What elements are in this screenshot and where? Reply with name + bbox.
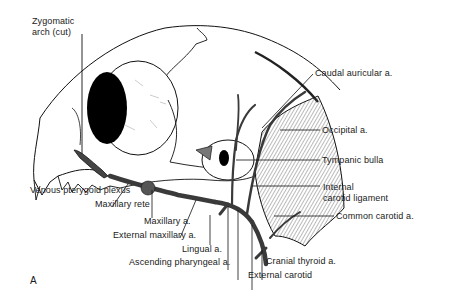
label-tympanic-bulla: Tympanic bulla <box>322 155 383 166</box>
label-maxillary-a: Maxillary a. <box>144 216 191 227</box>
label-common-carotid: Common carotid a. <box>336 211 414 222</box>
label-external-carotid: External carotid <box>248 270 312 281</box>
label-zygomatic-arch: Zygomatic arch (cut) <box>32 16 74 38</box>
anatomical-figure: Zygomatic arch (cut) Caudal auricular a.… <box>0 0 455 301</box>
label-cranial-thyroid: Cranial thyroid a. <box>266 256 336 267</box>
skull-drawing <box>0 0 455 301</box>
label-lingual: Lingual a. <box>182 244 222 255</box>
label-occipital: Occipital a. <box>322 125 368 136</box>
label-venous-pterygoid-plexus: Venous pterygoid plexus <box>30 185 130 196</box>
label-maxillary-rete: Maxillary rete <box>95 199 150 210</box>
maxillary-rete <box>141 181 155 195</box>
label-ascending-pharyngeal: Ascending pharyngeal a. <box>129 257 230 268</box>
label-internal-carotid-ligament: Internal carotid ligament <box>323 182 388 204</box>
label-caudal-auricular: Caudal auricular a. <box>315 68 392 79</box>
skull-outline <box>40 26 340 118</box>
panel-label: A <box>30 275 37 286</box>
occipital-region <box>255 96 344 246</box>
orbit-shadow <box>87 72 127 144</box>
label-external-maxillary: External maxillary a. <box>113 230 196 241</box>
